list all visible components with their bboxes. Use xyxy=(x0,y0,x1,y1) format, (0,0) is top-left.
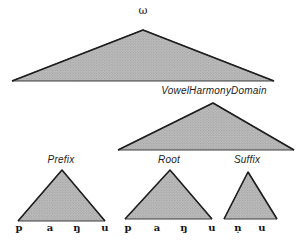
segment-letter: a xyxy=(47,222,53,233)
prefix-label: Prefix xyxy=(48,154,75,165)
root-label: Root xyxy=(158,154,180,165)
segment-letter: ŋ xyxy=(73,222,80,233)
segment-letter: a xyxy=(154,222,160,233)
segment-letter: ŋ xyxy=(180,222,187,233)
prosodic-word-triangle xyxy=(12,30,274,81)
segment-letter: p xyxy=(125,222,132,233)
prosodic-word-label: ω xyxy=(139,4,148,17)
prosodic-structure-diagram: ω VowelHarmonyDomain Prefix Root Suffix … xyxy=(0,0,298,244)
suffix-triangle xyxy=(224,172,277,219)
segment-letter: u xyxy=(101,222,108,233)
prefix-triangle xyxy=(18,170,105,221)
segment-letter: ṇ xyxy=(234,222,241,233)
vowel-harmony-domain-triangle xyxy=(118,103,294,150)
segment-letter: u xyxy=(258,222,265,233)
segment-letter: p xyxy=(16,222,23,233)
suffix-label: Suffix xyxy=(234,154,260,165)
triangles-layer xyxy=(0,0,298,244)
vowel-harmony-domain-label: VowelHarmonyDomain xyxy=(161,85,267,96)
root-triangle xyxy=(125,170,212,219)
segment-letter: u xyxy=(208,222,215,233)
